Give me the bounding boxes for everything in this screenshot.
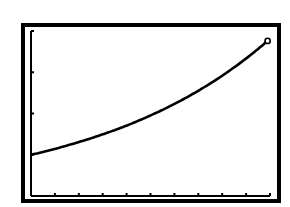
curve-endpoint-marker: [265, 38, 270, 43]
screen-background: [0, 0, 290, 207]
calculator-graph-screen: [0, 0, 290, 207]
